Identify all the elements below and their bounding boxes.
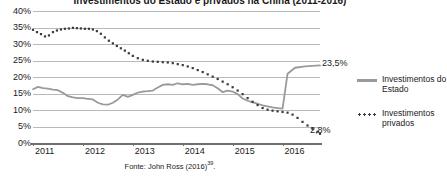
series-dot [68, 27, 70, 29]
series-dot [202, 71, 204, 73]
series-dot [137, 57, 139, 59]
series-dot [76, 27, 78, 29]
series-dot [217, 78, 219, 80]
legend-solid-line-icon [357, 79, 377, 82]
series-dot [266, 109, 268, 111]
series-dot [32, 29, 34, 31]
series-dot [276, 110, 278, 112]
data-label-state: 23,5% [322, 59, 348, 68]
series-dot [92, 28, 94, 30]
chart-legend: Investimentos do Estado Investimentos pr… [357, 74, 447, 142]
series-dot [291, 114, 293, 116]
series-dot [242, 93, 244, 95]
series-dot [197, 69, 199, 71]
series-dots-investimentos-privados [32, 27, 321, 135]
series-dot [108, 40, 110, 42]
series-dot [80, 27, 82, 29]
series-dot [96, 30, 98, 32]
series-dot [296, 117, 298, 119]
series-dot [36, 31, 38, 33]
series-dot [207, 73, 209, 75]
series-dot [281, 111, 283, 113]
series-dot [187, 65, 189, 67]
legend-item-privados[interactable]: Investimentos privados [357, 108, 447, 130]
series-dot [252, 101, 254, 103]
series-dot [40, 33, 42, 35]
series-dot [116, 45, 118, 47]
series-dot [247, 97, 249, 99]
series-dot [257, 104, 259, 106]
series-dot [128, 52, 130, 54]
series-dot [104, 36, 106, 38]
series-dot [72, 27, 74, 29]
series-dot [100, 33, 102, 35]
source-text: Fonte: John Ross (2016) [125, 162, 208, 171]
series-dot [306, 124, 308, 126]
series-dot [152, 60, 154, 62]
series-dot [120, 47, 122, 49]
series-dot [192, 67, 194, 69]
series-dot [84, 28, 86, 30]
series-dot [44, 35, 46, 37]
source-caption: Fonte: John Ross (2016)39. [0, 160, 340, 171]
series-dot [56, 29, 58, 31]
series-dot [162, 61, 164, 63]
series-dot [88, 28, 90, 30]
series-dot [301, 121, 303, 123]
series-dot [142, 59, 144, 61]
series-dot [124, 50, 126, 52]
legend-dotted-line-icon [357, 113, 377, 116]
series-dot [237, 89, 239, 91]
chart-figure: Investimentos do Estado e privados na Ch… [0, 0, 447, 176]
legend-label-estado: Investimentos do Estado [382, 74, 447, 94]
series-dot [52, 31, 54, 33]
legend-label-privados: Investimentos privados [382, 108, 447, 128]
series-dot [271, 110, 273, 112]
series-dot [286, 112, 288, 114]
series-dot [227, 83, 229, 85]
series-dot [112, 42, 114, 44]
legend-item-estado[interactable]: Investimentos do Estado [357, 74, 447, 96]
series-dot [172, 62, 174, 64]
series-dot [132, 55, 134, 57]
series-line-investimentos-do-estado [33, 65, 320, 108]
series-dot [262, 107, 264, 109]
series-dot [182, 64, 184, 66]
source-footnote-number: 39 [207, 160, 213, 166]
series-dot [167, 61, 169, 63]
series-dot [212, 76, 214, 78]
series-dot [60, 28, 62, 30]
series-dot [64, 28, 66, 30]
series-dot [48, 34, 50, 36]
series-dot [177, 63, 179, 65]
data-label-private: 2,8% [310, 126, 331, 135]
series-dot [232, 86, 234, 88]
series-dot [157, 61, 159, 63]
series-dot [222, 81, 224, 83]
series-dot [147, 60, 149, 62]
